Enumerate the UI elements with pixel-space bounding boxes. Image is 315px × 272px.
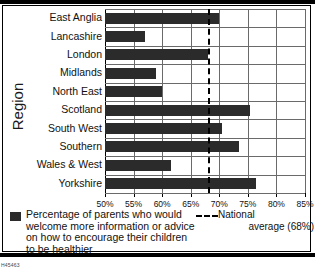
bar-row (105, 138, 305, 156)
category-label-wales-west: Wales & West (37, 158, 102, 170)
bar-north-east (105, 86, 162, 97)
x-tick-label: 65% (182, 199, 199, 209)
bar-row (105, 119, 305, 137)
national-average-line (208, 9, 210, 193)
top-rule (0, 0, 315, 4)
category-label-east-anglia: East Anglia (49, 11, 102, 23)
bar-row (105, 83, 305, 101)
category-label-south-west: South West (48, 122, 102, 134)
x-tick-label: 80% (268, 199, 285, 209)
bar-row (105, 46, 305, 64)
bar-south-west (105, 123, 222, 134)
x-tick-label: 70% (211, 199, 228, 209)
legend-national-average: National average (68%) (218, 209, 314, 233)
category-label-scotland: Scotland (61, 103, 102, 115)
category-label-london: London (67, 48, 102, 60)
bar-row (105, 175, 305, 193)
bar-row (105, 9, 305, 27)
figure-code: H45463 (1, 262, 20, 268)
bar-lancashire (105, 31, 145, 42)
row-separator (105, 193, 305, 194)
category-label-yorkshire: Yorkshire (59, 177, 102, 189)
category-label-midlands: Midlands (60, 66, 102, 78)
bar-scotland (105, 105, 250, 116)
category-label-group: East AngliaLancashireLondonMidlandsNorth… (10, 9, 102, 193)
national-average-label-line2: average (68%) (218, 221, 314, 233)
national-average-label-line1: National (218, 209, 314, 221)
bar-row (105, 156, 305, 174)
bar-london (105, 49, 208, 60)
bar-row (105, 101, 305, 119)
bar-southern (105, 141, 239, 152)
bar-yorkshire (105, 178, 256, 189)
x-tick-label: 85% (296, 199, 313, 209)
legend-series: Percentage of parents who wouldwelcome m… (10, 209, 200, 255)
bar-midlands (105, 68, 156, 79)
x-tick-label: 75% (239, 199, 256, 209)
chart-figure: Region East AngliaLancashireLondonMidlan… (0, 0, 315, 272)
legend-swatch-icon (10, 212, 21, 221)
bar-wales-west (105, 160, 171, 171)
bar-row (105, 64, 305, 82)
legend-line: to be healthier (26, 244, 200, 256)
bar-east-anglia (105, 13, 219, 24)
legend-series-label: Percentage of parents who wouldwelcome m… (26, 209, 200, 255)
category-label-southern: Southern (59, 140, 102, 152)
bar-row (105, 27, 305, 45)
dashed-line-icon (196, 215, 218, 217)
plot-area: 50%55%60%65%70%75%80%85% (105, 9, 305, 193)
legend-line: Percentage of parents who would (26, 209, 200, 221)
category-label-lancashire: Lancashire (51, 30, 102, 42)
gridline-85 (305, 9, 306, 193)
category-label-north-east: North East (52, 85, 102, 97)
x-tick (305, 193, 306, 197)
